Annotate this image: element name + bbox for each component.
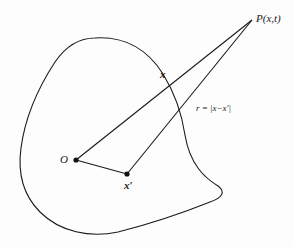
source-point-dot: [124, 171, 129, 176]
origin-label: O: [60, 154, 68, 165]
origin-point-dot: [73, 157, 78, 162]
vector-x-prime-line: [76, 160, 127, 174]
field-point-label: P(x,t): [256, 13, 281, 24]
diagram-canvas: P(x,t) O x′ x r = |x−x′|: [0, 0, 294, 247]
vector-x-line: [76, 20, 252, 160]
distance-r-label: r = |x−x′|: [196, 104, 231, 113]
vector-x-label: x: [160, 69, 166, 80]
source-point-label: x′: [124, 180, 133, 191]
diagram-figure: [0, 0, 294, 247]
